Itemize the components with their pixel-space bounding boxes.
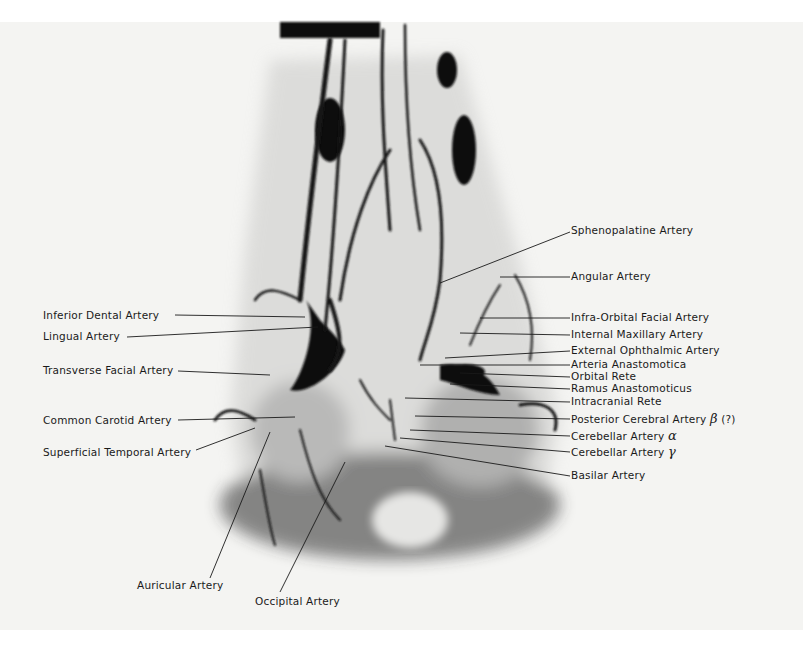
label-angular-artery: Angular Artery [571, 270, 651, 282]
label-orbital-rete: Orbital Rete [571, 370, 636, 382]
greek-letter: γ [668, 444, 676, 459]
label-common-carotid-artery: Common Carotid Artery [43, 414, 172, 426]
label-occipital-artery: Occipital Artery [255, 595, 340, 607]
label-lingual-artery: Lingual Artery [43, 330, 120, 342]
label-superficial-temporal-artery: Superficial Temporal Artery [43, 446, 191, 458]
label-auricular-artery: Auricular Artery [137, 579, 223, 591]
label-transverse-facial-artery: Transverse Facial Artery [43, 364, 173, 376]
label-cerebellar-artery-alpha: Cerebellar Artery α [571, 428, 677, 443]
label-basilar-artery: Basilar Artery [571, 469, 645, 481]
bulla-shadow [372, 492, 448, 548]
label-text: Cerebellar Artery [571, 446, 664, 458]
greek-letter: β [710, 411, 718, 426]
label-sphenopalatine-artery: Sphenopalatine Artery [571, 224, 693, 236]
label-infra-orbital-facial-artery: Infra-Orbital Facial Artery [571, 311, 709, 323]
label-posterior-cerebral-artery-beta: Posterior Cerebral Artery β (?) [571, 411, 736, 426]
label-cerebellar-artery-gamma: Cerebellar Artery γ [571, 444, 676, 459]
label-external-ophthalmic-artery: External Ophthalmic Artery [571, 344, 720, 356]
label-intracranial-rete: Intracranial Rete [571, 395, 662, 407]
soft-tissue-shadow [220, 55, 560, 560]
label-inferior-dental-artery: Inferior Dental Artery [43, 309, 159, 321]
label-text: Posterior Cerebral Artery [571, 413, 706, 425]
label-arteria-anastomotica: Arteria Anastomotica [571, 358, 686, 370]
label-suffix: (?) [718, 413, 736, 425]
label-ramus-anastomoticus: Ramus Anastomoticus [571, 382, 692, 394]
greek-letter: α [668, 428, 677, 443]
label-internal-maxillary-artery: Internal Maxillary Artery [571, 328, 703, 340]
angiogram-image [0, 0, 803, 647]
label-text: Cerebellar Artery [571, 430, 664, 442]
